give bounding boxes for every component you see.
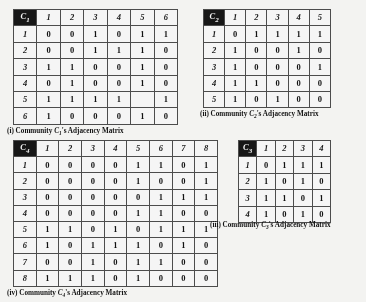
matrix-column-header-4: 4 — [312, 141, 330, 157]
matrix-cell-r6c3: 0 — [84, 108, 107, 124]
panel-caption-c2: (ii) Community C2's Adjacency Matrix — [200, 111, 331, 120]
matrix-row: 300000111 — [14, 189, 218, 205]
matrix-row-header-3: 3 — [204, 59, 225, 75]
matrix-header-row: C412345678 — [14, 141, 218, 157]
matrix-cell-r7c8: 0 — [195, 254, 218, 270]
matrix-row-header-5: 5 — [14, 221, 37, 237]
panel-caption-c1: (i) Community C1's Adjacency Matrix — [7, 128, 178, 137]
matrix-cell-r5c3: 1 — [267, 91, 288, 107]
adjacency-matrix-c1: C112345610010112001110311001040100105111… — [13, 9, 178, 125]
matrix-cell-r6c8: 0 — [195, 238, 218, 254]
matrix-cell-r3c1: 1 — [257, 190, 275, 206]
matrix-row-header-4: 4 — [14, 75, 37, 91]
panel-caption-c3: (iii) Community C3's Adjacency Matrix — [210, 222, 331, 231]
matrix-cell-r1c1: 0 — [225, 26, 246, 42]
matrix-row-header-4: 4 — [204, 75, 225, 91]
matrix-cell-r2c1: 1 — [225, 42, 246, 58]
matrix-cell-r4c4: 0 — [107, 75, 130, 91]
matrix-cell-r4c3: 0 — [267, 75, 288, 91]
matrix-cell-r5c4: 1 — [104, 221, 127, 237]
caption-prefix: Community — [223, 221, 260, 229]
matrix-cell-r3c3: 0 — [81, 189, 104, 205]
matrix-cell-r2c2: 0 — [60, 42, 83, 58]
matrix-panel-c1: C112345610010112001110311001040100105111… — [13, 9, 178, 137]
adjacency-matrix-c4: C412345678100001101200001001300000111400… — [13, 140, 218, 287]
matrix-cell-r6c5: 1 — [127, 238, 150, 254]
matrix-cell-r6c6: 0 — [149, 238, 172, 254]
matrix-column-header-1: 1 — [225, 10, 246, 26]
matrix-row-header-1: 1 — [14, 26, 37, 42]
matrix-cell-r2c4: 1 — [107, 42, 130, 58]
matrix-cell-r4c4: 0 — [288, 75, 309, 91]
caption-prefix: Community — [19, 289, 56, 297]
matrix-cell-r3c5: 0 — [127, 189, 150, 205]
matrix-cell-r2c1: 0 — [36, 173, 59, 189]
matrix-column-header-6: 6 — [154, 10, 177, 26]
matrix-cell-r3c2: 0 — [246, 59, 267, 75]
matrix-cell-r4c7: 0 — [172, 205, 195, 221]
matrix-row: 511111 — [14, 91, 178, 107]
matrix-cell-r5c6: 1 — [149, 221, 172, 237]
matrix-cell-r2c4: 0 — [312, 173, 330, 189]
caption-prefix: Community — [211, 110, 248, 118]
matrix-panel-c4: C412345678100001101200001001300000111400… — [13, 140, 218, 299]
matrix-cell-r1c2: 0 — [60, 26, 83, 42]
matrix-cell-r2c1: 0 — [37, 42, 60, 58]
caption-index: (iii) — [210, 221, 221, 229]
matrix-column-header-5: 5 — [309, 10, 330, 26]
caption-prefix: Community — [16, 127, 53, 135]
matrix-cell-r6c4: 1 — [104, 238, 127, 254]
matrix-cell-r8c1: 1 — [36, 270, 59, 286]
matrix-cell-r1c3: 0 — [81, 157, 104, 173]
matrix-row: 100001101 — [14, 157, 218, 173]
matrix-row-header-1: 1 — [239, 157, 257, 173]
matrix-body-c4: C412345678100001101200001001300000111400… — [14, 141, 218, 287]
matrix-row-header-1: 1 — [204, 26, 225, 42]
matrix-column-header-4: 4 — [104, 141, 127, 157]
matrix-cell-r1c3: 1 — [294, 157, 312, 173]
matrix-cell-r3c1: 0 — [36, 189, 59, 205]
matrix-row: 31101 — [239, 190, 331, 206]
matrix-cell-r8c4: 0 — [104, 270, 127, 286]
matrix-cell-r4c3: 1 — [294, 206, 312, 222]
matrix-cell-r5c5: 0 — [309, 91, 330, 107]
matrix-cell-r4c4: 0 — [104, 205, 127, 221]
matrix-row: 41010 — [239, 206, 331, 222]
matrix-row-header-3: 3 — [14, 59, 37, 75]
matrix-cell-r3c3: 0 — [84, 59, 107, 75]
matrix-header-row: C1123456 — [14, 10, 178, 26]
matrix-column-header-8: 8 — [195, 141, 218, 157]
matrix-cell-r1c5: 1 — [131, 26, 154, 42]
matrix-row: 610111010 — [14, 238, 218, 254]
matrix-row-header-3: 3 — [14, 189, 37, 205]
matrix-cell-r2c4: 1 — [288, 42, 309, 58]
matrix-cell-r2c2: 0 — [246, 42, 267, 58]
matrix-cell-r8c5: 1 — [127, 270, 150, 286]
matrix-cell-r5c1: 1 — [37, 91, 60, 107]
matrix-cell-r6c1: 1 — [37, 108, 60, 124]
matrix-column-header-7: 7 — [172, 141, 195, 157]
matrix-column-header-4: 4 — [107, 10, 130, 26]
matrix-column-header-2: 2 — [275, 141, 293, 157]
matrix-cell-r2c2: 0 — [59, 173, 82, 189]
matrix-cell-r3c6: 1 — [149, 189, 172, 205]
adjacency-matrix-c3: C3123410111210103110141010 — [238, 140, 331, 223]
caption-suffix: 's Adjacency Matrix — [62, 127, 124, 135]
matrix-cell-r2c3: 0 — [81, 173, 104, 189]
matrix-cell-r1c2: 0 — [59, 157, 82, 173]
matrix-body-c2: C212345101111210010310001411000510100 — [204, 10, 331, 108]
matrix-row: 811101000 — [14, 270, 218, 286]
matrix-corner-label: C4 — [14, 141, 37, 157]
matrix-row: 400001100 — [14, 205, 218, 221]
matrix-body-c3: C3123410111210103110141010 — [239, 141, 331, 223]
matrix-cell-r3c5: 1 — [131, 59, 154, 75]
matrix-cell-r5c1: 1 — [225, 91, 246, 107]
matrix-cell-r1c6: 1 — [149, 157, 172, 173]
matrix-cell-r5c3: 1 — [84, 91, 107, 107]
matrix-cell-r2c5: 0 — [309, 42, 330, 58]
matrix-cell-r3c7: 1 — [172, 189, 195, 205]
matrix-cell-r2c3: 1 — [294, 173, 312, 189]
matrix-cell-r1c3: 1 — [267, 26, 288, 42]
matrix-cell-r4c6: 0 — [154, 75, 177, 91]
matrix-row-header-7: 7 — [14, 254, 37, 270]
